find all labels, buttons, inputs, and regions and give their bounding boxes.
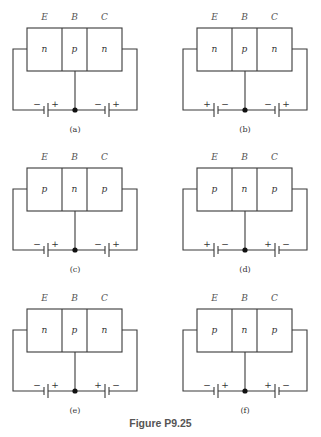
junction-node xyxy=(242,247,247,252)
terminal-label-e: E xyxy=(40,12,48,22)
polarity-right: − xyxy=(112,380,120,390)
polarity-left: + xyxy=(203,99,211,109)
polarity-left: + xyxy=(264,380,272,390)
terminal-label-b: B xyxy=(70,293,78,303)
panel-label: (e) xyxy=(70,406,81,415)
terminal-label-b: B xyxy=(70,152,78,162)
polarity-left: − xyxy=(94,99,102,109)
base-region: p xyxy=(72,44,78,54)
polarity-left: − xyxy=(203,380,211,390)
panel-d: EBCpnp+−+−(d) xyxy=(183,152,307,274)
junction-node xyxy=(242,388,247,393)
polarity-left: + xyxy=(264,239,272,249)
polarity-left: − xyxy=(33,380,41,390)
battery-cb: +− xyxy=(264,380,290,398)
polarity-left: − xyxy=(33,239,41,249)
terminal-label-b: B xyxy=(240,293,248,303)
polarity-right: + xyxy=(51,380,59,390)
terminal-label-c: C xyxy=(101,12,108,22)
terminal-label-e: E xyxy=(40,293,48,303)
polarity-right: − xyxy=(221,99,229,109)
terminal-label-c: C xyxy=(271,152,278,162)
emitter-region: p xyxy=(42,184,48,194)
battery-eb: −+ xyxy=(33,99,59,117)
polarity-right: − xyxy=(282,239,290,249)
base-region: n xyxy=(72,184,78,194)
base-region: n xyxy=(242,325,248,335)
collector-region: p xyxy=(272,184,278,194)
battery-eb: +− xyxy=(203,99,229,117)
terminal-label-b: B xyxy=(240,152,248,162)
polarity-left: − xyxy=(33,99,41,109)
polarity-left: − xyxy=(94,239,102,249)
collector-region: n xyxy=(102,44,108,54)
panel-f: EBCpnp−++−(f) xyxy=(183,293,307,415)
polarity-right: + xyxy=(51,99,59,109)
polarity-left: − xyxy=(264,99,272,109)
junction-node xyxy=(72,388,77,393)
collector-region: p xyxy=(272,325,278,335)
junction-node xyxy=(72,107,77,112)
panel-label: (d) xyxy=(239,265,250,274)
battery-cb: −+ xyxy=(264,99,290,117)
collector-region: n xyxy=(102,325,108,335)
panel-label: (b) xyxy=(239,125,250,134)
terminal-label-b: B xyxy=(70,12,78,22)
emitter-region: n xyxy=(42,325,48,335)
emitter-region: n xyxy=(42,44,48,54)
emitter-region: p xyxy=(212,184,218,194)
battery-cb: +− xyxy=(264,239,290,257)
terminal-label-c: C xyxy=(271,293,278,303)
terminal-label-c: C xyxy=(271,12,278,22)
battery-cb: −+ xyxy=(94,239,120,257)
battery-eb: −+ xyxy=(33,239,59,257)
terminal-label-e: E xyxy=(210,12,218,22)
panel-label: (c) xyxy=(70,265,81,274)
polarity-right: − xyxy=(221,239,229,249)
junction-node xyxy=(72,247,77,252)
base-region: n xyxy=(242,184,248,194)
polarity-right: + xyxy=(112,99,120,109)
battery-eb: +− xyxy=(203,239,229,257)
panel-a: EBCnpn−+−+(a) xyxy=(13,12,137,134)
emitter-region: p xyxy=(212,325,218,335)
collector-region: p xyxy=(102,184,108,194)
battery-cb: +− xyxy=(94,380,120,398)
figure-p9-25: EBCnpn−+−+(a)EBCnpn+−−+(b)EBCpnp−+−+(c)E… xyxy=(0,0,321,437)
polarity-left: + xyxy=(94,380,102,390)
polarity-right: + xyxy=(112,239,120,249)
polarity-right: + xyxy=(51,239,59,249)
panel-label: (a) xyxy=(69,125,80,134)
polarity-right: − xyxy=(282,380,290,390)
emitter-region: n xyxy=(212,44,218,54)
terminal-label-c: C xyxy=(101,152,108,162)
terminal-label-c: C xyxy=(101,293,108,303)
figure-caption: Figure P9.25 xyxy=(0,417,321,429)
battery-eb: −+ xyxy=(203,380,229,398)
terminal-label-e: E xyxy=(210,152,218,162)
panel-e: EBCnpn−++−(e) xyxy=(13,293,137,415)
panel-label: (f) xyxy=(240,406,249,415)
junction-node xyxy=(242,107,247,112)
polarity-right: + xyxy=(221,380,229,390)
base-region: p xyxy=(72,325,78,335)
panel-b: EBCnpn+−−+(b) xyxy=(183,12,307,134)
base-region: p xyxy=(242,44,248,54)
polarity-right: + xyxy=(282,99,290,109)
polarity-left: + xyxy=(203,239,211,249)
terminal-label-e: E xyxy=(210,293,218,303)
battery-eb: −+ xyxy=(33,380,59,398)
terminal-label-e: E xyxy=(40,152,48,162)
panel-c: EBCpnp−+−+(c) xyxy=(13,152,137,274)
collector-region: n xyxy=(272,44,278,54)
terminal-label-b: B xyxy=(240,12,248,22)
battery-cb: −+ xyxy=(94,99,120,117)
